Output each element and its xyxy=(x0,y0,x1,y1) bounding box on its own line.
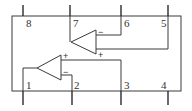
pin-label-3: 3 xyxy=(124,79,130,91)
pin-label-7: 7 xyxy=(73,17,79,29)
pin-label-6: 6 xyxy=(124,17,130,29)
pin-label-5: 5 xyxy=(161,17,167,29)
opamp-triangle-icon xyxy=(71,30,96,54)
upper-opamp: − + xyxy=(70,16,168,60)
minus-sign: − xyxy=(63,67,68,77)
wire-minus-pin2 xyxy=(61,75,72,91)
minus-sign: − xyxy=(98,27,103,37)
pin-label-2: 2 xyxy=(74,79,80,91)
pin-label-8: 8 xyxy=(26,17,32,29)
plus-sign: + xyxy=(98,50,103,60)
pin-label-1: 1 xyxy=(26,79,32,91)
plus-sign: + xyxy=(63,51,68,61)
opamp-triangle-icon xyxy=(37,55,61,80)
lower-opamp: + − xyxy=(23,51,121,91)
ic-pinout-diagram: 8 7 6 5 1 2 3 4 − + + − xyxy=(0,0,192,111)
wire-plus-pin5 xyxy=(96,16,168,49)
pin-label-4: 4 xyxy=(161,79,167,91)
